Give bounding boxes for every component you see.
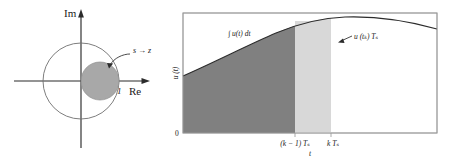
right-panel-integration-plot: ∫ u(t) dt u (tₖ) Tₛ u (t) 0 (k − 1) Tₛ k… — [0, 0, 450, 165]
origin-label: 0 — [175, 129, 179, 138]
sample-area-leader-arrowhead — [338, 39, 345, 43]
integral-annotation-label: ∫ u(t) dt — [227, 29, 251, 38]
y-axis-label: u (t) — [171, 66, 180, 79]
figure-root: Im Re 1 s → z — [0, 0, 450, 165]
xtick-label-k-minus-1: (k − 1) Tₛ — [280, 139, 310, 148]
sample-rectangle — [295, 21, 331, 133]
x-axis-label: t — [309, 149, 312, 158]
xtick-label-k: k Tₛ — [327, 139, 339, 148]
sample-area-annotation-label: u (tₖ) Tₛ — [354, 32, 378, 41]
